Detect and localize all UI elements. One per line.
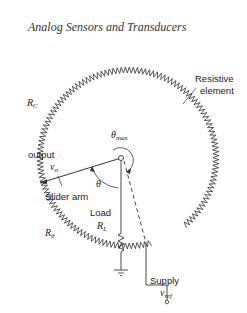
theta-label: θ bbox=[96, 178, 101, 189]
supply-label: Supply bbox=[150, 275, 179, 286]
rl-label: RL bbox=[96, 220, 107, 233]
slider-arm-label: Slider arm bbox=[45, 191, 88, 202]
resistive-element-coil bbox=[37, 67, 219, 249]
resistive-label-1: Resistive bbox=[195, 73, 234, 84]
rtheta-label: Rθ bbox=[44, 227, 55, 240]
potentiometer-diagram: Resistive element RC output vo Slider ar… bbox=[0, 0, 247, 313]
slider-pointer bbox=[58, 176, 62, 186]
vref-label: vref bbox=[160, 287, 173, 300]
output-label: output bbox=[28, 149, 55, 160]
rc-label: RC bbox=[26, 97, 38, 110]
vo-label: vo bbox=[50, 161, 58, 174]
pivot-icon bbox=[119, 156, 124, 161]
max-position-line bbox=[124, 161, 146, 243]
resistive-label-2: element bbox=[200, 85, 234, 96]
load-label: Load bbox=[90, 207, 111, 218]
theta-max-label: θmax bbox=[111, 129, 128, 142]
supply-terminal-icon bbox=[165, 300, 169, 304]
